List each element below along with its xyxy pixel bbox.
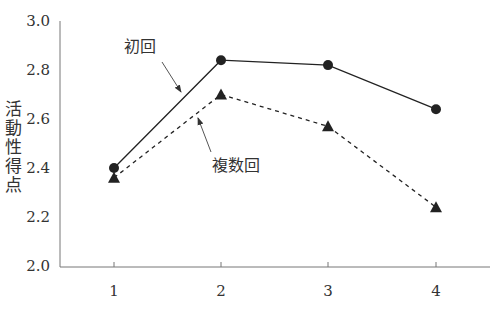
series-group [108,55,442,212]
annotation-first-time: 初回 [124,37,181,92]
x-tick-label: 1 [109,282,119,300]
circle-marker-icon [216,55,226,65]
triangle-marker-icon [215,89,227,100]
circle-marker-icon [109,163,119,173]
annotation-label-multiple: 複数回 [212,156,260,175]
y-axis-label: 活動性得点 [3,100,23,195]
x-tick-label: 3 [323,282,333,300]
x-tick-label: 4 [431,282,441,300]
triangle-marker-icon [430,201,442,212]
y-tick-label: 2.4 [26,159,50,177]
circle-marker-icon [431,104,441,114]
x-axis: 1234 [60,262,490,300]
y-tick-label: 2.6 [26,110,50,128]
annotation-label-first: 初回 [124,37,156,56]
line-chart: 2.02.22.42.62.83.0 1234 初回 複数回 [0,0,497,309]
y-tick-label: 2.0 [26,257,50,275]
y-tick-label: 3.0 [26,12,50,30]
triangle-marker-icon [108,172,120,183]
arrow-icon [198,118,211,152]
series-multiple-times [108,89,442,213]
triangle-marker-icon [322,120,334,131]
arrow-icon [162,62,181,92]
y-tick-label: 2.2 [26,208,50,226]
annotation-multiple-times: 複数回 [198,118,260,175]
x-tick-label: 2 [216,282,226,300]
series-first-time [109,55,441,173]
circle-marker-icon [323,60,333,70]
y-tick-label: 2.8 [26,61,50,79]
y-axis: 2.02.22.42.62.83.0 [26,12,60,275]
